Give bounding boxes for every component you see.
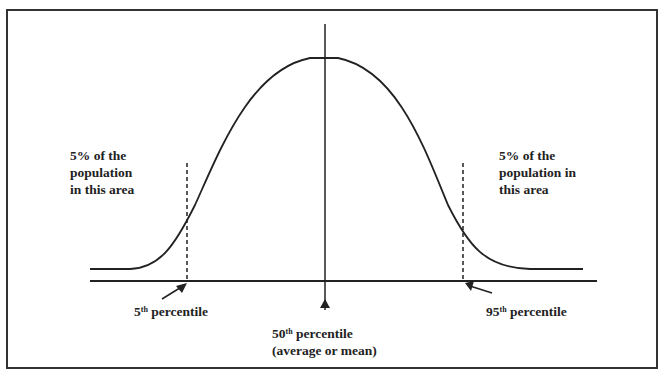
p5-number: 5 xyxy=(134,304,141,319)
p5-text: percentile xyxy=(148,304,208,319)
p50-text: percentile xyxy=(293,326,353,341)
left-area-label-line: in this area xyxy=(70,181,134,198)
left-area-label-line: population xyxy=(70,164,134,181)
right-area-label: 5% of the population in this area xyxy=(499,147,576,198)
p50-subtext: (average or mean) xyxy=(272,342,377,359)
left-area-label-line: 5% of the xyxy=(70,147,134,164)
p50-label: 50th percentile (average or mean) xyxy=(272,325,377,359)
right-area-label-line: 5% of the xyxy=(499,147,576,164)
p5-label: 5th percentile xyxy=(134,303,208,320)
p95-text: percentile xyxy=(507,304,567,319)
p5-arrow-icon xyxy=(176,283,187,293)
p95-number: 95 xyxy=(486,304,500,319)
mean-arrow-icon xyxy=(320,299,330,308)
p95-label: 95th percentile xyxy=(486,303,567,320)
p50-number: 50 xyxy=(272,326,286,341)
p50-suffix: th xyxy=(286,327,293,336)
p5-suffix: th xyxy=(141,305,148,314)
left-area-label: 5% of the population in this area xyxy=(70,147,134,198)
p95-suffix: th xyxy=(500,305,507,314)
right-area-label-line: population in xyxy=(499,164,576,181)
p95-arrow-icon xyxy=(465,281,474,291)
right-area-label-line: this area xyxy=(499,181,576,198)
